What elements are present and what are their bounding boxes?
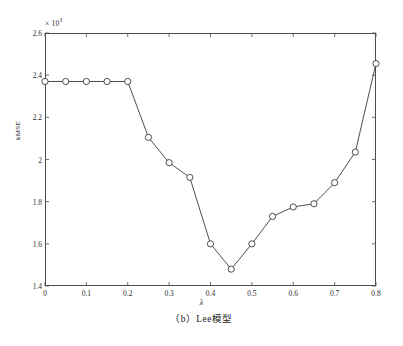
y-tick-label: 2.4 [33,71,42,80]
y-tick-label: 1.4 [33,282,42,291]
data-point-marker [42,78,48,84]
data-point-marker [228,266,234,272]
y-axis-exponent-label: × 103 [45,17,62,28]
data-point-marker [311,201,317,207]
x-tick-label: 0.8 [371,289,380,298]
data-point-marker [352,149,358,155]
data-line-kmse [45,64,376,270]
y-axis-title: kMSE [14,121,22,140]
x-tick-label: 0.1 [82,289,91,298]
chart-canvas [45,33,376,286]
axis-ticks [45,33,376,286]
data-point-marker [104,78,110,84]
x-tick-label: 0.3 [164,289,173,298]
data-point-marker [83,78,89,84]
x-axis-title: λ [0,298,403,307]
data-markers [42,60,379,272]
plot-area [45,33,376,286]
figure-caption: （b）Lee模型 [0,311,403,325]
y-tick-label: 2.6 [33,29,42,38]
x-tick-label: 0.4 [206,289,215,298]
data-point-marker [63,78,69,84]
y-tick-label: 1.8 [33,197,42,206]
data-point-marker [290,204,296,210]
y-tick-label: 2.2 [33,113,42,122]
y-tick-label: 1.6 [33,239,42,248]
y-tick-label: 2 [38,155,42,164]
figure-panel: × 103 1.41.61.822.22.42.6 00.10.20.30.40… [0,0,403,346]
data-point-marker [373,60,379,66]
y-axis-exponent-power: 3 [59,17,62,23]
data-point-marker [249,241,255,247]
data-point-marker [187,174,193,180]
data-point-marker [125,78,131,84]
x-tick-label: 0.5 [247,289,256,298]
data-point-marker [269,213,275,219]
x-tick-label: 0 [43,289,47,298]
data-point-marker [166,160,172,166]
y-axis-tick-labels: 1.41.61.822.22.42.6 [18,33,42,286]
data-point-marker [207,241,213,247]
x-tick-label: 0.2 [123,289,132,298]
x-tick-label: 0.7 [330,289,339,298]
data-point-marker [332,180,338,186]
x-tick-label: 0.6 [289,289,298,298]
data-point-marker [145,134,151,140]
y-axis-exponent-mantissa: × 10 [45,19,59,28]
